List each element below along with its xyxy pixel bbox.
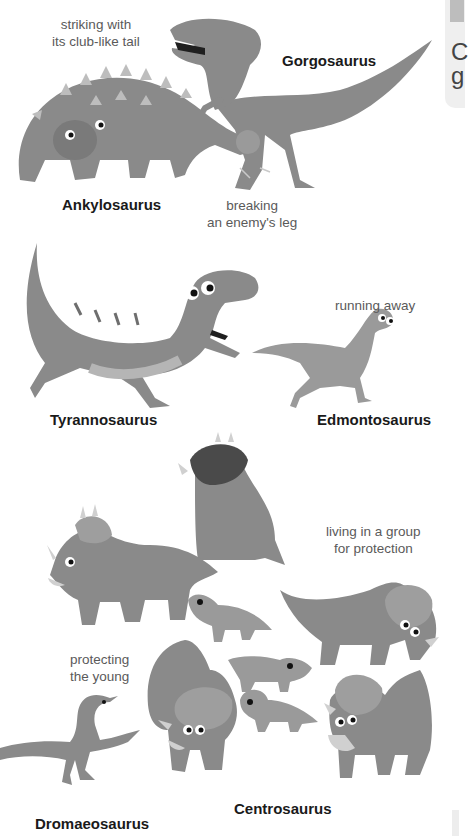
caption-line: living in a group bbox=[326, 523, 421, 540]
centrosaurus-parent-figure bbox=[148, 640, 237, 772]
tyrannosaurus-figure bbox=[27, 243, 259, 408]
centrosaurus-front-figure bbox=[324, 670, 432, 778]
caption-line: breaking bbox=[207, 197, 297, 214]
edmontosaurus-figure bbox=[252, 309, 394, 408]
caption-breaking: breaking an enemy's leg bbox=[207, 197, 297, 231]
label-edmontosaurus: Edmontosaurus bbox=[317, 411, 431, 428]
centrosaurus-back-figure bbox=[178, 432, 285, 565]
gorgosaurus-ankylosaurus-illustration bbox=[0, 10, 440, 195]
caption-living: living in a group for protection bbox=[326, 523, 421, 557]
side-info-box: C g bbox=[445, 0, 465, 108]
label-dromaeosaurus: Dromaeosaurus bbox=[35, 815, 149, 832]
caption-line: protecting bbox=[70, 651, 129, 668]
caption-line: the young bbox=[70, 668, 129, 685]
centrosaurus-right-figure bbox=[280, 583, 439, 666]
gorgosaurus-figure bbox=[170, 19, 432, 190]
tyrannosaurus-edmontosaurus-illustration bbox=[0, 238, 459, 413]
label-tyrannosaurus: Tyrannosaurus bbox=[50, 411, 157, 428]
side-info-text-line2: g bbox=[451, 62, 464, 90]
label-gorgosaurus: Gorgosaurus bbox=[282, 52, 376, 69]
label-centrosaurus: Centrosaurus bbox=[234, 800, 332, 817]
caption-protecting: protecting the young bbox=[70, 651, 129, 685]
page-edge-strip bbox=[452, 810, 459, 836]
side-info-tab bbox=[450, 0, 464, 22]
centrosaurus-herd-illustration bbox=[0, 430, 459, 810]
caption-line: an enemy's leg bbox=[207, 214, 297, 231]
dromaeosaurus-figure bbox=[0, 695, 140, 785]
label-ankylosaurus: Ankylosaurus bbox=[62, 196, 161, 213]
caption-line: for protection bbox=[326, 540, 421, 557]
caption-running: running away bbox=[335, 297, 415, 314]
